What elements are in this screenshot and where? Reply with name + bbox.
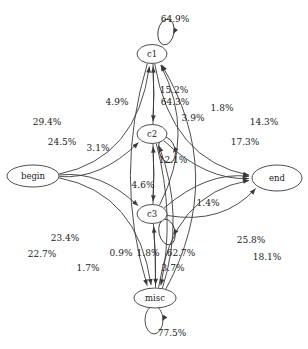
node-begin[interactable]: begin bbox=[7, 165, 59, 187]
edge-label-c3-c3: 62.7% bbox=[167, 248, 196, 258]
graph-canvas: beginc1c2c3miscend 64.9%64.3%62.7%77.5%1… bbox=[0, 0, 308, 349]
arrowhead-misc-end bbox=[243, 179, 249, 184]
edge-label-c1-c1: 64.9% bbox=[161, 14, 190, 24]
edge-label-misc-misc: 77.5% bbox=[158, 328, 187, 338]
edge-label-begin-misc: 22.7% bbox=[28, 249, 57, 259]
edge-label-c3-end: 1.4% bbox=[197, 198, 220, 208]
edge-label-misc-c1: 1.7% bbox=[77, 263, 100, 273]
edge-label-c1-misc: 1.8% bbox=[211, 103, 234, 113]
edge-label-c2-misc: 3.9% bbox=[182, 113, 205, 123]
node-c2[interactable]: c2 bbox=[137, 125, 167, 144]
node-label-c3: c3 bbox=[147, 209, 157, 219]
node-label-c2: c2 bbox=[147, 129, 157, 139]
node-label-c1: c1 bbox=[147, 49, 157, 59]
edge-label-c2-c3: 12.1% bbox=[159, 155, 188, 165]
edge-label-c2-c1: 4.9% bbox=[106, 97, 129, 107]
edges-layer bbox=[59, 18, 256, 334]
edge-label-c3-misc: 3.7% bbox=[162, 263, 185, 273]
arrowhead-c3-c2 bbox=[151, 147, 156, 153]
edge-label-c2-end: 17.3% bbox=[231, 137, 260, 147]
edge-label-begin-c2: 24.5% bbox=[48, 137, 77, 147]
node-end[interactable]: end bbox=[252, 165, 302, 191]
edge-label-c3-end: 25.8% bbox=[237, 235, 266, 245]
edge-begin-to-misc bbox=[59, 178, 151, 285]
edge-label-misc-end: 18.1% bbox=[253, 252, 282, 262]
state-transition-diagram: beginc1c2c3miscend 64.9%64.3%62.7%77.5%1… bbox=[0, 0, 308, 349]
arrowhead-c2-c3 bbox=[151, 195, 156, 201]
arrowhead-misc-c2 bbox=[159, 146, 163, 152]
edge-begin-to-c1 bbox=[59, 67, 149, 175]
node-label-begin: begin bbox=[21, 171, 46, 181]
arrowhead-c1-c2 bbox=[151, 115, 156, 121]
arrowhead-c1-misc bbox=[143, 279, 148, 285]
node-misc[interactable]: misc bbox=[134, 288, 176, 308]
arrowhead-c1-c1 bbox=[173, 28, 178, 34]
edge-label-begin-c3: 23.4% bbox=[51, 233, 80, 243]
edge-label-c2-c2: 64.3% bbox=[161, 97, 190, 107]
arrowhead-begin-c1 bbox=[146, 67, 151, 73]
arrowhead-c3-misc bbox=[153, 279, 158, 285]
edge-begin-to-c3 bbox=[59, 174, 138, 205]
node-c1[interactable]: c1 bbox=[137, 45, 167, 64]
edge-label-c3-c2: 4.6% bbox=[132, 180, 155, 190]
edge-label-c1-end: 14.3% bbox=[250, 117, 279, 127]
edge-label-c3-c1: 3.1% bbox=[87, 143, 110, 153]
arrowheads-layer bbox=[132, 28, 256, 321]
nodes-layer: beginc1c2c3miscend bbox=[7, 45, 302, 309]
arrowhead-begin-misc bbox=[148, 279, 153, 285]
node-label-misc: misc bbox=[145, 293, 165, 303]
node-c3[interactable]: c3 bbox=[137, 205, 167, 224]
node-label-end: end bbox=[269, 173, 286, 183]
edge-label-misc-c3: 1.8% bbox=[137, 248, 160, 258]
edge-label-misc-c2: 0.9% bbox=[110, 248, 133, 258]
edge-label-begin-c1: 29.4% bbox=[33, 117, 62, 127]
edge-label-c1-c2: 15.2% bbox=[160, 85, 189, 95]
